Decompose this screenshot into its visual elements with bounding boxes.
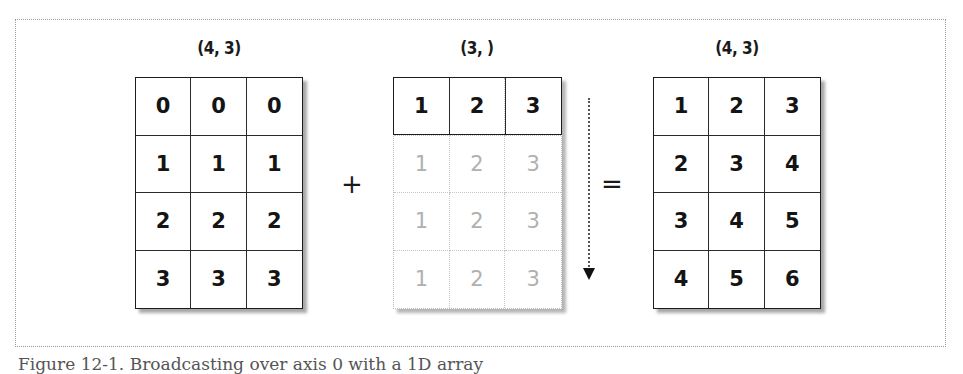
- matrix-cell: 3: [136, 251, 191, 309]
- matrix-cell: 5: [765, 193, 820, 251]
- broadcast-cell: 1: [394, 251, 450, 309]
- matrix-cell: 0: [247, 78, 302, 136]
- arrow-head-icon: [583, 268, 595, 280]
- dotted-down-arrow-icon: [588, 98, 590, 270]
- matrix-cell: 0: [191, 78, 246, 136]
- broadcast-cell: 3: [505, 136, 561, 194]
- matrix-cell: 3: [247, 251, 302, 309]
- matrix-cell: 3: [654, 193, 709, 251]
- matrix-cell: 4: [765, 136, 820, 194]
- broadcast-cell: 2: [450, 251, 506, 309]
- matrix-cell: 3: [191, 251, 246, 309]
- broadcast-cell: 2: [450, 193, 506, 251]
- matrix-cell: 1: [394, 78, 450, 136]
- broadcast-cell: 3: [505, 251, 561, 309]
- matrix-cell: 6: [765, 251, 820, 309]
- matrix-cell: 1: [191, 136, 246, 194]
- left-shape-label: (4, 3): [135, 38, 303, 58]
- matrix-cell: 2: [654, 136, 709, 194]
- broadcast-cell: 3: [505, 193, 561, 251]
- matrix-cell: 4: [709, 193, 764, 251]
- matrix-cell: 2: [191, 193, 246, 251]
- broadcast-matrix: 1 2 3 1 2 3 1 2 3 1 2 3: [393, 77, 562, 309]
- broadcast-cell: 2: [450, 136, 506, 194]
- equals-operator: =: [601, 171, 623, 197]
- matrix-cell: 1: [247, 136, 302, 194]
- matrix-cell: 2: [709, 78, 764, 136]
- matrix-cell: 3: [505, 78, 561, 136]
- matrix-cell: 2: [247, 193, 302, 251]
- matrix-cell: 2: [136, 193, 191, 251]
- middle-shape-label: (3, ): [393, 38, 561, 58]
- broadcast-cell: 1: [394, 193, 450, 251]
- matrix-cell: 4: [654, 251, 709, 309]
- right-shape-label: (4, 3): [653, 38, 821, 58]
- result-matrix: 1 2 3 2 3 4 3 4 5 4 5 6: [653, 77, 821, 309]
- matrix-cell: 3: [709, 136, 764, 194]
- matrix-cell: 1: [654, 78, 709, 136]
- matrix-cell: 5: [709, 251, 764, 309]
- broadcast-cell: 1: [394, 136, 450, 194]
- matrix-cell: 3: [765, 78, 820, 136]
- plus-operator: +: [341, 171, 363, 197]
- left-matrix: 0 0 0 1 1 1 2 2 2 3 3 3: [135, 77, 303, 309]
- matrix-cell: 0: [136, 78, 191, 136]
- matrix-cell: 1: [136, 136, 191, 194]
- matrix-cell: 2: [450, 78, 506, 136]
- figure-caption: Figure 12-1. Broadcasting over axis 0 wi…: [18, 354, 483, 374]
